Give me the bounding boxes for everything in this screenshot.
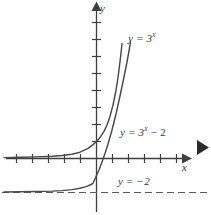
curve-label-shifted-text: y = 3: [120, 126, 144, 138]
curve-y-equals-3-to-the-x-minus-2: [4, 42, 131, 192]
y-axis-label: y: [100, 3, 105, 14]
curve-label-shifted: y = 3x − 2: [120, 125, 166, 138]
asymptote-label: y = −2: [118, 176, 150, 187]
exponential-graph-figure: y = 3x y = 3x − 2 y = −2 y x: [0, 0, 211, 215]
graph-canvas: [0, 0, 211, 215]
curve-y-equals-3-to-the-x: [4, 44, 122, 158]
x-axis-label: x: [182, 162, 187, 173]
curve-label-base-text: y = 3: [128, 32, 152, 44]
curve-label-shifted-tail: − 2: [148, 126, 166, 138]
curve-label-base-exponent: x: [152, 30, 156, 39]
play-triangle-icon: [197, 140, 209, 155]
curve-label-base: y = 3x: [128, 31, 156, 44]
axes-group: [6, 2, 192, 213]
